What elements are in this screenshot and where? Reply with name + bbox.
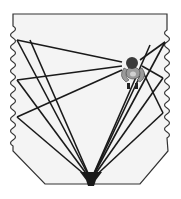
diagram-canvas	[0, 0, 181, 199]
room-outline	[11, 14, 170, 184]
reflection-diagram	[0, 0, 181, 199]
